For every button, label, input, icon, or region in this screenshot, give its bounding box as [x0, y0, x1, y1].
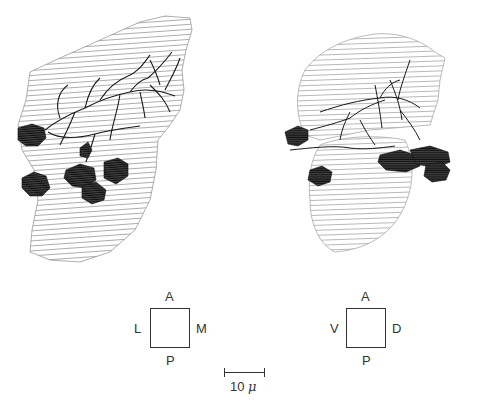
right-reconstruction [250, 0, 495, 280]
scale-bar: 10 μ [222, 366, 272, 406]
orientation-square [150, 308, 190, 348]
left-reconstruction [0, 0, 250, 280]
orientation-left-label: V [330, 322, 339, 335]
orientation-left-label: L [134, 322, 141, 335]
left-orientation-key: A P L M [100, 288, 240, 378]
right-outline-upper [298, 34, 446, 140]
scale-bar-label: 10 μ [230, 379, 257, 394]
orientation-bottom-label: P [362, 354, 371, 367]
orientation-right-label: M [196, 322, 207, 335]
orientation-square [346, 308, 386, 348]
orientation-top-label: A [361, 290, 370, 303]
orientation-top-label: A [165, 290, 174, 303]
right-orientation-key: A P V D [296, 288, 436, 378]
scale-bar-tick-right [264, 368, 265, 377]
scale-bar-line [224, 372, 264, 373]
scale-bar-unit: μ [248, 379, 256, 394]
orientation-bottom-label: P [166, 354, 175, 367]
orientation-right-label: D [392, 322, 401, 335]
scale-bar-value: 10 [230, 379, 244, 394]
